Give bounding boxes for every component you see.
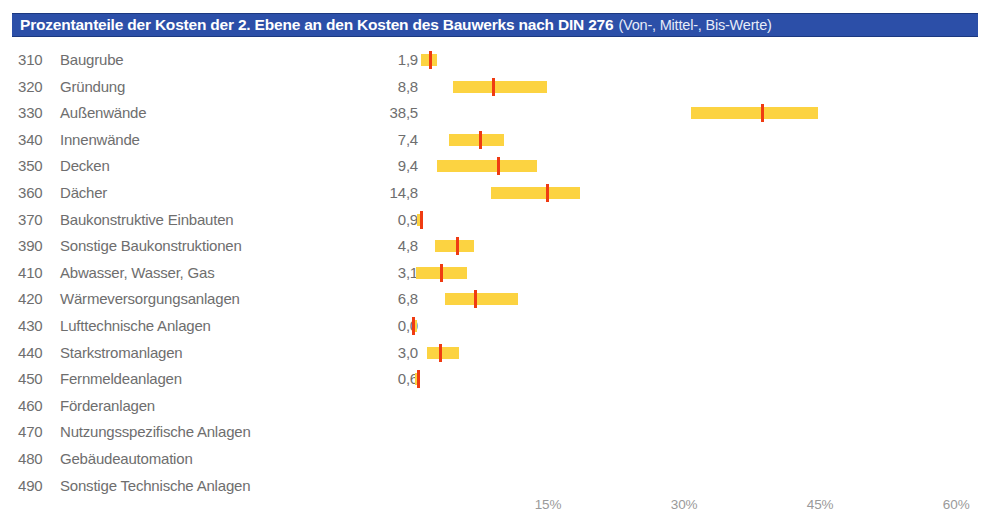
row-code: 330 [18,100,58,127]
chart-row: 420Wärmeversorgungsanlagen6,8 [0,286,990,313]
mid-value-marker [412,317,415,335]
row-label: Innenwände [60,127,140,154]
mid-value-marker [429,51,432,69]
row-label: Abwasser, Wasser, Gas [60,260,214,287]
row-value: 7,4 [330,127,418,154]
chart-row: 360Dächer14,8 [0,180,990,207]
mid-value-marker [761,104,764,122]
row-label: Gründung [60,74,125,101]
row-code: 480 [18,446,58,473]
axis-tick-label: 30% [671,497,698,512]
mid-value-marker [440,264,443,282]
row-code: 450 [18,366,58,393]
mid-value-marker [479,131,482,149]
row-value: 1,9 [330,47,418,74]
row-code: 310 [18,47,58,74]
row-value: 38,5 [330,100,418,127]
row-value: 3,0 [330,340,418,367]
x-axis: 15%30%45%60% [0,497,990,519]
row-value: 8,8 [330,74,418,101]
row-label: Außenwände [60,100,146,127]
mid-value-marker [474,290,477,308]
chart-row: 490Sonstige Technische Anlagen [0,473,990,500]
mid-value-marker [497,157,500,175]
chart-row: 390Sonstige Baukonstruktionen4,8 [0,233,990,260]
row-label: Gebäudeautomation [60,446,193,473]
chart-title-bar: Prozentanteile der Kosten der 2. Ebene a… [12,13,978,37]
row-value: 6,8 [330,286,418,313]
chart-row: 410Abwasser, Wasser, Gas3,1 [0,260,990,287]
row-label: Decken [60,153,110,180]
range-bar [435,240,474,252]
row-code: 350 [18,153,58,180]
chart-row: 460Förderanlagen [0,393,990,420]
chart-row: 480Gebäudeautomation [0,446,990,473]
chart-row: 350Decken9,4 [0,153,990,180]
range-bar [453,81,547,93]
row-value: 3,1 [330,260,418,287]
row-code: 430 [18,313,58,340]
row-label: Förderanlagen [60,393,155,420]
row-code: 360 [18,180,58,207]
row-code: 440 [18,340,58,367]
row-label: Nutzungsspezifische Anlagen [60,419,251,446]
row-value: 14,8 [330,180,418,207]
row-label: Wärmeversorgungsanlagen [60,286,240,313]
axis-tick-label: 15% [535,497,562,512]
row-code: 370 [18,207,58,234]
row-value: 0,9 [330,207,418,234]
range-bar [449,134,504,146]
chart-row: 320Gründung8,8 [0,74,990,101]
row-label: Baugrube [60,47,123,74]
range-bar [491,187,580,199]
range-bar [437,160,537,172]
chart-row: 450Fernmeldeanlagen0,6 [0,366,990,393]
range-bar [691,107,818,119]
row-label: Fernmeldeanlagen [60,366,182,393]
chart-row: 330Außenwände38,5 [0,100,990,127]
row-label: Starkstromanlagen [60,340,183,367]
range-bar [445,293,518,305]
row-code: 390 [18,233,58,260]
chart-body: 310Baugrube1,9320Gründung8,8330Außenwänd… [0,41,990,527]
mid-value-marker [420,211,423,229]
mid-value-marker [456,237,459,255]
chart-row: 430Lufttechnische Anlagen0,0 [0,313,990,340]
row-value: 0,0 [330,313,418,340]
range-bar [427,347,459,359]
chart-row: 370Baukonstruktive Einbauten0,9 [0,207,990,234]
mid-value-marker [492,78,495,96]
row-value: 0,6 [330,366,418,393]
row-label: Dächer [60,180,107,207]
chart-row: 470Nutzungsspezifische Anlagen [0,419,990,446]
axis-tick-label: 60% [943,497,970,512]
row-code: 320 [18,74,58,101]
row-code: 410 [18,260,58,287]
row-code: 420 [18,286,58,313]
row-code: 470 [18,419,58,446]
mid-value-marker [417,370,420,388]
row-code: 490 [18,473,58,500]
row-value: 9,4 [330,153,418,180]
chart-row: 340Innenwände7,4 [0,127,990,154]
row-value: 4,8 [330,233,418,260]
row-code: 340 [18,127,58,154]
chart-row: 440Starkstromanlagen3,0 [0,340,990,367]
mid-value-marker [439,344,442,362]
axis-tick-label: 45% [807,497,834,512]
chart-row: 310Baugrube1,9 [0,47,990,74]
row-label: Sonstige Technische Anlagen [60,473,250,500]
row-label: Sonstige Baukonstruktionen [60,233,242,260]
row-label: Lufttechnische Anlagen [60,313,211,340]
page-subtitle: (Von-, Mittel-, Bis-Werte) [618,17,771,33]
mid-value-marker [546,184,549,202]
row-label: Baukonstruktive Einbauten [60,207,233,234]
row-code: 460 [18,393,58,420]
page-title: Prozentanteile der Kosten der 2. Ebene a… [20,16,613,34]
